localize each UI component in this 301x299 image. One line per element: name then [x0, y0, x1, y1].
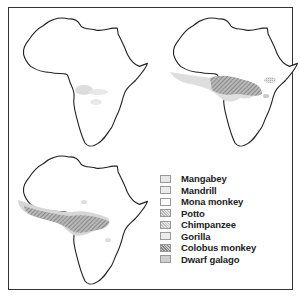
legend-label: Mona monkey	[181, 196, 243, 207]
legend-swatch	[160, 232, 171, 240]
legend-item-chimpanzee: Chimpanzee	[160, 219, 256, 231]
legend-label: Chimpanzee	[181, 219, 236, 230]
legend-item-mangabey: Mangabey	[160, 173, 256, 185]
legend-label: Mangabey	[181, 173, 227, 184]
legend-item-potto: Potto	[160, 208, 256, 220]
legend-swatch	[160, 255, 171, 263]
legend-swatch	[160, 221, 171, 229]
legend-swatch	[160, 186, 171, 194]
africa-map-1	[12, 14, 150, 150]
legend-item-mandrill: Mandrill	[160, 185, 256, 197]
legend-label: Potto	[181, 208, 205, 219]
legend-item-dwarf-galago: Dwarf galago	[160, 254, 256, 266]
legend-label: Colobus monkey	[181, 242, 256, 253]
legend-label: Gorilla	[181, 231, 210, 242]
africa-map-2	[162, 14, 300, 150]
legend-item-colobus-monkey: Colobus monkey	[160, 242, 256, 254]
legend-label: Mandrill	[181, 185, 217, 196]
legend-swatch	[160, 244, 171, 252]
legend: Mangabey Mandrill Mona monkey Potto Chim…	[160, 173, 256, 265]
legend-swatch	[160, 175, 171, 183]
legend-label: Dwarf galago	[181, 254, 239, 265]
legend-swatch	[160, 198, 171, 206]
africa-map-3	[12, 152, 150, 288]
legend-item-gorilla: Gorilla	[160, 231, 256, 243]
legend-item-mona-monkey: Mona monkey	[160, 196, 256, 208]
legend-swatch	[160, 209, 171, 217]
